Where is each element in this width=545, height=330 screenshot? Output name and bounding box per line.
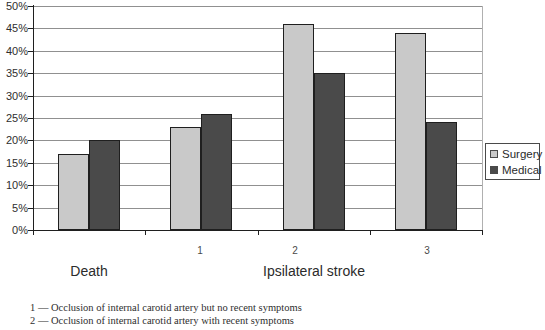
y-tick-label-25: 25% <box>0 112 28 124</box>
y-tick-mark <box>28 208 33 209</box>
legend: Surgery Medical <box>485 143 540 180</box>
y-tick-mark <box>28 73 33 74</box>
bar-surgery-3 <box>395 33 426 230</box>
bar-medical-death <box>89 140 120 230</box>
x-sublabel-2: 2 <box>285 245 305 256</box>
y-tick-mark <box>28 28 33 29</box>
y-tick-mark <box>28 51 33 52</box>
x-tick-mark <box>370 231 371 235</box>
y-axis-line <box>33 5 34 231</box>
footnote-1: 1 — Occlusion of internal carotid artery… <box>30 302 302 315</box>
bar-surgery-death <box>58 154 89 230</box>
legend-item-surgery: Surgery <box>490 148 539 160</box>
y-tick-mark <box>28 6 33 7</box>
x-tick-mark <box>33 231 34 235</box>
gridline-50 <box>33 6 482 7</box>
y-tick-mark <box>28 118 33 119</box>
y-tick-label-45: 45% <box>0 22 28 34</box>
y-tick-label-20: 20% <box>0 134 28 146</box>
bar-surgery-1 <box>170 127 201 230</box>
bar-chart: 0%5%10%15%20%25%30%35%40%45%50% 1 2 3 De… <box>0 0 545 330</box>
x-tick-mark <box>145 231 146 235</box>
medical-swatch-icon <box>490 166 498 174</box>
footnote-2: 2 — Occlusion of internal carotid artery… <box>30 315 302 328</box>
y-tick-label-50: 50% <box>0 0 28 12</box>
y-tick-label-15: 15% <box>0 157 28 169</box>
legend-item-medical: Medical <box>490 164 539 176</box>
bar-medical-3 <box>426 122 457 230</box>
y-tick-mark <box>28 140 33 141</box>
y-tick-label-35: 35% <box>0 67 28 79</box>
bar-surgery-2 <box>283 24 314 230</box>
x-category-ipsilateral-stroke: Ipsilateral stroke <box>239 263 389 279</box>
plot-area <box>33 6 483 230</box>
y-tick-label-5: 5% <box>0 202 28 214</box>
y-tick-mark <box>28 163 33 164</box>
bar-medical-2 <box>314 73 345 230</box>
y-tick-label-10: 10% <box>0 179 28 191</box>
y-tick-mark <box>28 96 33 97</box>
surgery-swatch-icon <box>490 150 498 158</box>
y-tick-label-40: 40% <box>0 45 28 57</box>
x-tick-mark <box>258 231 259 235</box>
x-sublabel-3: 3 <box>417 245 437 256</box>
x-category-death: Death <box>39 263 139 279</box>
x-tick-mark <box>482 231 483 235</box>
gridline-45 <box>33 28 482 29</box>
y-tick-mark <box>28 185 33 186</box>
x-sublabel-1: 1 <box>190 245 210 256</box>
bar-medical-1 <box>201 114 232 230</box>
legend-label-medical: Medical <box>502 164 542 176</box>
y-tick-label-0: 0% <box>0 224 28 236</box>
footnotes: 1 — Occlusion of internal carotid artery… <box>30 302 302 327</box>
legend-label-surgery: Surgery <box>502 148 542 160</box>
y-tick-label-30: 30% <box>0 90 28 102</box>
